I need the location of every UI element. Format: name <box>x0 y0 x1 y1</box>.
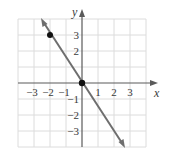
x-tick: 3 <box>127 86 133 98</box>
y-axis-arrow-icon <box>79 9 85 17</box>
coordinate-plane: x y −3 −2 −1 1 2 3 3 2 −1 −2 −3 <box>0 0 171 157</box>
y-tick: 3 <box>74 29 80 41</box>
x-tick: 2 <box>111 86 117 98</box>
x-axis-label: x <box>153 86 160 100</box>
y-tick: −3 <box>67 125 79 137</box>
y-tick: −2 <box>67 109 79 121</box>
x-tick: −3 <box>26 86 38 98</box>
x-tick: 1 <box>95 86 101 98</box>
y-tick: 2 <box>74 45 80 57</box>
point-neg2-3 <box>47 32 53 38</box>
y-axis-label: y <box>71 5 78 19</box>
x-tick-labels: −3 −2 −1 1 2 3 <box>26 86 133 98</box>
y-tick: −1 <box>67 93 79 105</box>
x-tick: −2 <box>42 86 54 98</box>
point-origin <box>79 80 85 86</box>
x-axis <box>18 80 158 86</box>
